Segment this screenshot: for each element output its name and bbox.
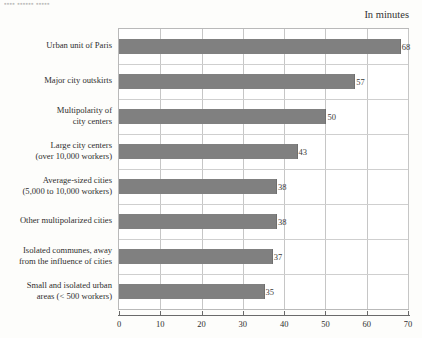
category-label: Urban unit of Paris xyxy=(0,40,116,51)
x-axis-tick-label: 70 xyxy=(404,319,413,329)
unit-note-label: In minutes xyxy=(364,9,409,20)
gridline-horizontal xyxy=(119,134,408,135)
bar-value-label: 35 xyxy=(266,287,275,297)
bar-value-label: 37 xyxy=(274,252,283,262)
bar-value-label: 68 xyxy=(402,42,411,52)
bar-value-label: 43 xyxy=(299,147,308,157)
bar-value-label: 57 xyxy=(356,77,365,87)
bar xyxy=(119,109,326,124)
cut-off-title-fragment: ▪▪▪▪ ▪▪▪▪▪▪ ▪▪▪▪▪ xyxy=(4,0,50,7)
x-axis-tick-label: 50 xyxy=(321,319,330,329)
category-label: Major city outskirts xyxy=(0,75,116,86)
x-axis-tick-label: 10 xyxy=(156,319,165,329)
gridline-vertical xyxy=(408,29,409,309)
x-axis-tick xyxy=(367,311,368,316)
x-axis-tick xyxy=(408,311,409,316)
x-axis-tick-label: 0 xyxy=(117,319,121,329)
category-label: Average-sized cities(5,000 to 10,000 wor… xyxy=(0,175,116,196)
chart-figure: ▪▪▪▪ ▪▪▪▪▪▪ ▪▪▪▪▪ In minutes 68575043383… xyxy=(0,0,422,338)
x-axis-tick xyxy=(202,311,203,316)
gridline-horizontal xyxy=(119,99,408,100)
category-label: Large city centers(over 10,000 workers) xyxy=(0,140,116,161)
category-label: Multipolarity ofcity centers xyxy=(0,105,116,126)
bar xyxy=(119,144,298,159)
x-axis-tick-label: 20 xyxy=(197,319,206,329)
x-axis-tick xyxy=(325,311,326,316)
bar-value-label: 50 xyxy=(327,112,336,122)
x-axis-tick xyxy=(119,311,120,316)
category-label-line: from the influence of cities xyxy=(0,256,112,267)
category-label-line: Major city outskirts xyxy=(0,75,112,86)
gridline-horizontal xyxy=(119,204,408,205)
plot-area: 6857504338383735 xyxy=(118,28,409,310)
category-label-line: Urban unit of Paris xyxy=(0,40,112,51)
bar-value-label: 38 xyxy=(278,217,287,227)
category-label-line: Small and isolated urban xyxy=(0,280,112,291)
category-label: Other multipolarized cities xyxy=(0,215,116,226)
x-axis-tick-label: 60 xyxy=(362,319,371,329)
category-label: Small and isolated urbanareas (< 500 wor… xyxy=(0,280,116,301)
x-axis-tick-label: 30 xyxy=(239,319,248,329)
bar xyxy=(119,249,273,264)
x-axis-tick xyxy=(243,311,244,316)
bar xyxy=(119,179,277,194)
bar xyxy=(119,39,401,54)
category-label-line: Other multipolarized cities xyxy=(0,215,112,226)
category-label-line: Large city centers xyxy=(0,140,112,151)
gridline-horizontal xyxy=(119,169,408,170)
bar xyxy=(119,74,355,89)
gridline-horizontal xyxy=(119,64,408,65)
category-label-line: Isolated communes, away xyxy=(0,245,112,256)
category-label-line: Average-sized cities xyxy=(0,175,112,186)
category-label: Isolated communes, awayfrom the influenc… xyxy=(0,245,116,266)
bar xyxy=(119,214,277,229)
category-label-line: areas (< 500 workers) xyxy=(0,291,112,302)
gridline-horizontal xyxy=(119,239,408,240)
bar xyxy=(119,284,265,299)
bar-value-label: 38 xyxy=(278,182,287,192)
category-label-line: city centers xyxy=(0,116,112,127)
gridline-horizontal xyxy=(119,274,408,275)
x-axis-tick xyxy=(284,311,285,316)
category-label-line: (over 10,000 workers) xyxy=(0,151,112,162)
x-axis-tick xyxy=(160,311,161,316)
x-axis-tick-label: 40 xyxy=(280,319,289,329)
category-label-line: Multipolarity of xyxy=(0,105,112,116)
category-label-line: (5,000 to 10,000 workers) xyxy=(0,186,112,197)
